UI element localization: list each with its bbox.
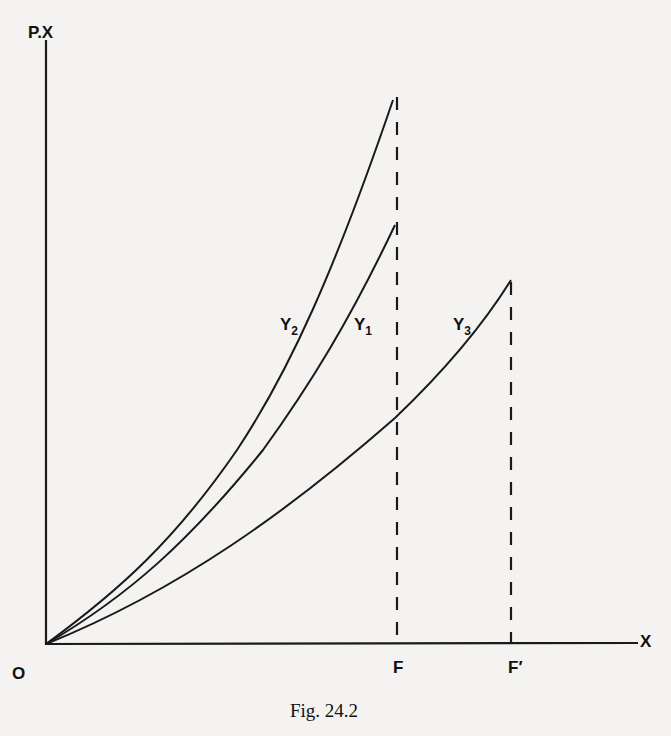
marker-f-label: F [393,658,403,677]
curve-y1 [46,225,395,644]
marker-f-prime-label: F′ [508,658,522,677]
y-axis-label: P.X [28,23,54,42]
x-axis-label: X [640,632,652,651]
x-axis [45,643,638,644]
curve-y2 [46,100,393,644]
diagram-figure: P.X X O F F′ Y2 Y1 Y3 Fig. 24.2 [0,0,671,736]
curve-y1-label: Y1 [354,315,372,338]
origin-label: O [12,664,25,683]
figure-caption: Fig. 24.2 [290,700,358,721]
curve-y3-label: Y3 [453,315,471,338]
curve-y2-label: Y2 [280,315,298,338]
